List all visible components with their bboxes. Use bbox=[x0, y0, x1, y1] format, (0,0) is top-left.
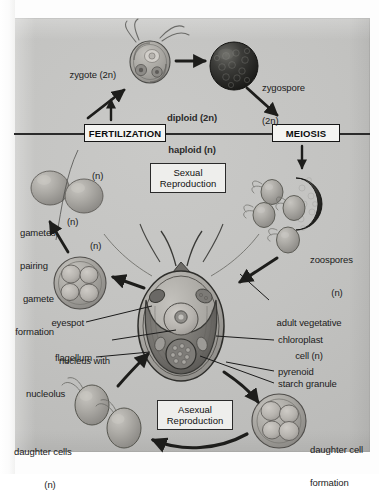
page-gutter bbox=[0, 0, 15, 474]
label-adult-line1: adult vegetative bbox=[258, 317, 360, 328]
mode-asexual-line1: Asexual bbox=[167, 404, 224, 416]
ploidy-divider-left bbox=[14, 133, 86, 135]
haploid-label: haploid (n) bbox=[147, 144, 237, 155]
figure-caption bbox=[26, 456, 346, 470]
stage-fertilization-label: FERTILIZATION bbox=[89, 128, 162, 139]
label-daughter-formation-line1: daughter cell bbox=[310, 444, 379, 455]
label-daughter-cells-line2: (n) bbox=[14, 479, 86, 490]
label-gametes-line1: gametes bbox=[20, 227, 82, 238]
label-chloroplast: chloroplast bbox=[278, 334, 354, 345]
label-starch-granule: starch granule bbox=[278, 378, 368, 389]
ploidy-divider-right bbox=[340, 133, 370, 135]
mode-sexual-line2: Reproduction bbox=[160, 178, 217, 190]
label-n-upper: (n) bbox=[92, 170, 116, 181]
diploid-label: diploid (2n) bbox=[147, 112, 237, 123]
mode-sexual-reproduction[interactable]: Sexual Reproduction bbox=[150, 163, 226, 193]
label-eyespot: eyespot bbox=[30, 317, 84, 328]
label-pyrenoid: pyrenoid bbox=[278, 366, 348, 377]
label-gametes-line2: pairing bbox=[20, 260, 82, 271]
label-n-gamete: (n) bbox=[90, 240, 114, 251]
label-zygospore-line2: (2n) bbox=[262, 115, 342, 126]
label-nucleus: nucleus with nucleolus bbox=[24, 333, 110, 421]
label-zygospore: zygospore (2n) bbox=[262, 60, 342, 148]
label-flagellum: flagellum bbox=[26, 352, 92, 363]
label-zygospore-line1: zygospore bbox=[262, 82, 342, 93]
label-nucleus-line2: nucleolus bbox=[24, 388, 110, 399]
stage-fertilization[interactable]: FERTILIZATION bbox=[84, 124, 166, 142]
label-daughter-formation-line2: formation bbox=[310, 477, 379, 488]
mode-asexual-line2: Reproduction bbox=[167, 415, 224, 427]
ploidy-divider-mid bbox=[164, 133, 272, 135]
mode-asexual-reproduction[interactable]: Asexual Reproduction bbox=[157, 400, 233, 430]
label-adult-line2: cell (n) bbox=[258, 350, 360, 361]
label-gamete-formation-line1: gamete bbox=[6, 293, 54, 304]
label-zygote: zygote (2n) bbox=[26, 69, 116, 80]
label-zoospores-line1: zoospores bbox=[310, 254, 378, 265]
mode-sexual-line1: Sexual bbox=[160, 167, 217, 179]
